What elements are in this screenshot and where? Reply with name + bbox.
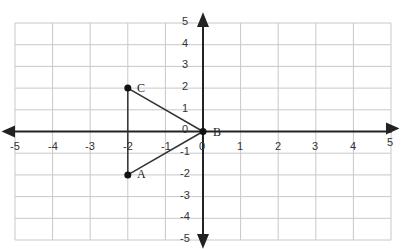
svg-text:1: 1 xyxy=(182,102,188,114)
label-a: A xyxy=(137,167,146,181)
svg-text:0: 0 xyxy=(182,123,188,135)
y-axis-down-arrow-icon xyxy=(199,235,208,246)
svg-text:3: 3 xyxy=(312,140,318,152)
svg-text:4: 4 xyxy=(182,37,188,49)
svg-text:-4: -4 xyxy=(180,210,190,222)
svg-text:5: 5 xyxy=(182,15,188,27)
svg-text:-1: -1 xyxy=(180,145,190,157)
svg-text:4: 4 xyxy=(350,140,356,152)
x-tick-labels: -5 -4 -3 -2 -1 0 1 2 3 4 5 xyxy=(10,136,393,152)
label-b: B xyxy=(213,125,221,139)
svg-text:3: 3 xyxy=(182,58,188,70)
svg-text:-2: -2 xyxy=(180,167,190,179)
point-b xyxy=(200,128,207,135)
svg-text:-1: -1 xyxy=(161,140,171,152)
y-tick-labels: 5 4 3 2 1 0 -1 -2 -3 -4 -5 xyxy=(180,15,190,244)
svg-text:2: 2 xyxy=(275,140,281,152)
coordinate-plane: C A B -5 -4 -3 -2 -1 0 1 2 3 4 5 5 4 3 2… xyxy=(0,0,401,249)
svg-text:2: 2 xyxy=(182,80,188,92)
y-axis-up-arrow-icon xyxy=(199,15,208,26)
svg-text:-4: -4 xyxy=(48,140,58,152)
label-c: C xyxy=(137,81,145,95)
svg-text:-5: -5 xyxy=(180,232,190,244)
svg-text:5: 5 xyxy=(387,136,393,148)
point-c xyxy=(124,85,131,92)
svg-text:0: 0 xyxy=(199,140,205,152)
svg-text:-3: -3 xyxy=(85,140,95,152)
svg-text:-5: -5 xyxy=(10,140,20,152)
svg-text:-2: -2 xyxy=(123,140,133,152)
x-axis-right-arrow-icon xyxy=(387,124,397,133)
svg-text:-3: -3 xyxy=(180,189,190,201)
point-a xyxy=(124,171,131,178)
svg-text:1: 1 xyxy=(237,140,243,152)
x-axis-left-arrow-icon xyxy=(4,127,14,136)
